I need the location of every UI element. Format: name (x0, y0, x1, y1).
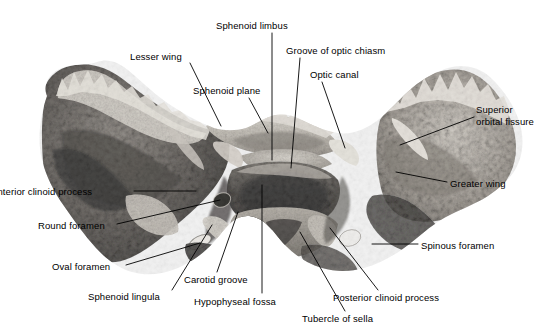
label-oval-foramen: Oval foramen (52, 261, 110, 273)
label-hypophyseal-fossa: Hypophyseal fossa (194, 296, 276, 308)
label-superior-orbital-fissure: Superior orbital fissure (476, 104, 534, 127)
label-round-foramen: Round foramen (38, 220, 105, 232)
label-sphenoid-plane: Sphenoid plane (193, 85, 260, 97)
anatomical-figure: Lesser wingSphenoid limbusGroove of opti… (0, 0, 560, 334)
label-lesser-wing: Lesser wing (130, 51, 182, 63)
label-groove-of-optic-chiasm: Groove of optic chiasm (286, 45, 385, 57)
label-tubercle-of-sella: Tubercle of sella (302, 313, 373, 325)
label-optic-canal: Optic canal (310, 69, 359, 81)
label-greater-wing: Greater wing (450, 178, 506, 190)
label-carotid-groove: Carotid groove (184, 274, 248, 286)
label-spinous-foramen: Spinous foramen (421, 240, 494, 252)
sphenoid-bone-image (0, 0, 560, 334)
label-posterior-clinoid-process: Posterior clinoid process (333, 292, 439, 304)
label-sphenoid-lingula: Sphenoid lingula (88, 291, 160, 303)
label-anterior-clinoid-process: Anterior clinoid process (0, 186, 92, 198)
label-sphenoid-limbus: Sphenoid limbus (216, 20, 288, 32)
